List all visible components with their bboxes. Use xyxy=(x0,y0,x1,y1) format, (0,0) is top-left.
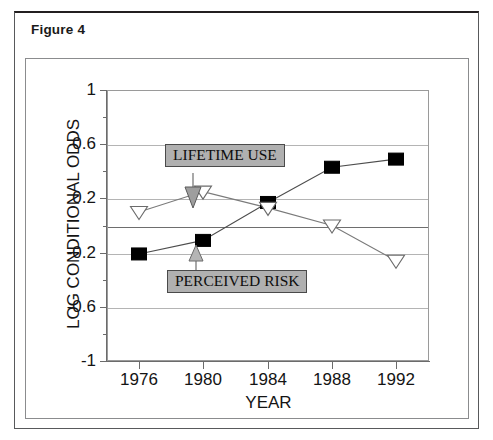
gridline-0.2 xyxy=(108,199,428,200)
y-tick--0.2 xyxy=(100,253,107,254)
x-tick-1976 xyxy=(139,362,140,369)
y-tick--1 xyxy=(100,361,107,362)
figure-title: Figure 4 xyxy=(31,22,85,37)
chart-frame: 1 0.6 0.2 -0.2 -0.6 -1 LOG CONDITIONAL O… xyxy=(25,58,469,419)
y-axis-title: LOG CONDITIONAL ODDS xyxy=(64,84,84,364)
x-tick-1980 xyxy=(203,362,204,369)
y-tick--0.4 xyxy=(103,280,107,281)
y-tick--0.8 xyxy=(103,334,107,335)
figure-container: Figure 4 1 0.6 0.2 -0.2 -0.6 -1 LOG xyxy=(14,11,479,429)
y-tick-0.2 xyxy=(100,198,107,199)
y-tick-0 xyxy=(103,226,107,227)
y-tick-0.4 xyxy=(103,171,107,172)
x-axis-tick-label-1984: 1984 xyxy=(236,371,300,388)
annotation-label-perceived-risk: PERCEIVED RISK xyxy=(167,270,307,293)
x-tick-1988 xyxy=(332,362,333,369)
y-tick-1 xyxy=(100,90,107,91)
x-tick-1984 xyxy=(268,362,269,369)
y-tick-0.6 xyxy=(100,144,107,145)
plot-area xyxy=(107,90,429,361)
x-axis-tick-label-1988: 1988 xyxy=(300,371,364,388)
gridline-0 xyxy=(108,227,428,228)
x-axis-tick-label-1992: 1992 xyxy=(364,371,428,388)
x-axis-title: YEAR xyxy=(107,393,430,413)
x-axis-tick-label-1976: 1976 xyxy=(107,371,171,388)
y-tick--0.6 xyxy=(100,307,107,308)
annotation-label-lifetime-use: LIFETIME USE xyxy=(165,144,285,167)
x-tick-1992 xyxy=(396,362,397,369)
gridline--0.6 xyxy=(108,308,428,309)
y-tick-0.8 xyxy=(103,117,107,118)
gridline--0.2 xyxy=(108,254,428,255)
x-axis-tick-label-1980: 1980 xyxy=(171,371,235,388)
